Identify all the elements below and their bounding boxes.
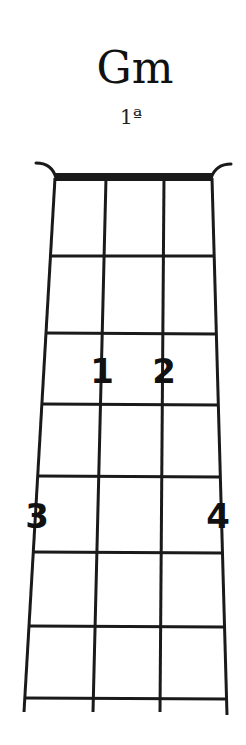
fretboard-diagram: 1 2 3 4 xyxy=(0,0,246,745)
frets xyxy=(25,256,226,699)
fret-2 xyxy=(46,333,217,334)
string-2 xyxy=(93,178,106,712)
fret-4 xyxy=(38,476,221,477)
fret-7 xyxy=(25,698,226,699)
nut xyxy=(55,173,213,181)
finger-3: 3 xyxy=(25,496,49,536)
right-headstock-curve xyxy=(211,164,231,178)
finger-1: 1 xyxy=(90,351,114,391)
fret-3 xyxy=(42,404,219,405)
finger-2: 2 xyxy=(152,351,176,391)
strings xyxy=(24,178,227,715)
fret-6 xyxy=(29,626,224,627)
string-4 xyxy=(212,178,227,715)
string-3 xyxy=(160,178,164,712)
finger-4: 4 xyxy=(206,496,230,536)
string-1 xyxy=(24,178,55,712)
left-headstock-curve xyxy=(36,163,56,178)
finger-labels: 1 2 3 4 xyxy=(25,351,230,536)
fret-5 xyxy=(33,552,222,553)
